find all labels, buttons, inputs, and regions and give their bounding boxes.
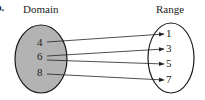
- mapping-diagram: b. Domain Range 4 6 8 1 3 5 7: [0, 0, 205, 100]
- arrow-8-to-7: [47, 74, 164, 80]
- domain-value-4: 4: [37, 37, 43, 48]
- arrow-4-to-1: [47, 34, 164, 42]
- diagram-graphics: [0, 0, 205, 100]
- range-value-1: 1: [166, 28, 172, 39]
- range-value-3: 3: [166, 43, 172, 54]
- range-value-7: 7: [166, 74, 172, 85]
- range-value-5: 5: [166, 58, 172, 69]
- domain-value-6: 6: [37, 51, 43, 62]
- domain-value-8: 8: [37, 67, 43, 78]
